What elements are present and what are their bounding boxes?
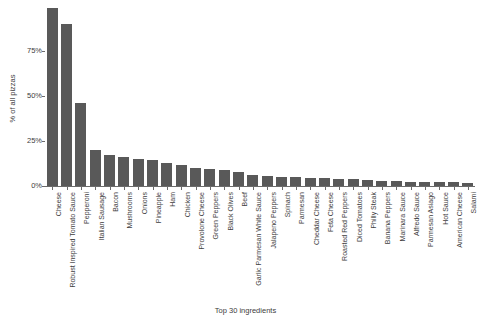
x-axis-tick-mark <box>181 187 182 190</box>
x-axis-tick-label: Garlic Parmesan White Sauce <box>255 192 262 286</box>
x-axis-tick-mark <box>396 187 397 190</box>
x-axis-tick-mark <box>282 187 283 190</box>
bar <box>247 175 258 186</box>
x-axis-tick-label: Parmesan Asiago <box>427 192 434 247</box>
bar <box>348 179 359 186</box>
bar <box>47 8 58 186</box>
x-axis-tick-mark <box>382 187 383 190</box>
x-axis-tick-mark <box>325 187 326 190</box>
x-axis-tick-label: Marinara Sauce <box>399 192 406 241</box>
bar <box>290 177 301 186</box>
x-axis-tick-mark <box>339 187 340 190</box>
y-axis-tick-label: 75% <box>16 47 42 55</box>
x-axis-tick-label: Philly Steak <box>370 192 377 229</box>
x-axis-tick-label: Cheddar Cheese <box>313 192 320 245</box>
x-axis-tick-label: Provolone Cheese <box>198 192 205 250</box>
bar <box>276 177 287 186</box>
x-axis-tick-label: Robust Inspired Tomato Sauce <box>69 192 76 288</box>
bar <box>434 182 445 186</box>
x-axis-tick-mark <box>310 187 311 190</box>
bar <box>75 103 86 186</box>
bar <box>147 160 158 186</box>
x-axis-tick-mark <box>468 187 469 190</box>
bar-chart: % of all pizzas 0%25%50%75% Top 30 ingre… <box>0 0 491 333</box>
x-axis-tick-label: Black Olives <box>227 192 234 231</box>
x-axis-tick-label: Parmesan <box>298 192 305 224</box>
bar <box>462 183 473 186</box>
x-axis-tick-mark <box>296 187 297 190</box>
bar <box>118 157 129 186</box>
bar <box>133 159 144 186</box>
bar <box>305 178 316 186</box>
x-axis-tick-mark <box>67 187 68 190</box>
x-axis-tick-label: Spinach <box>284 192 291 217</box>
x-axis-tick-mark <box>425 187 426 190</box>
bar <box>319 178 330 186</box>
bar <box>262 176 273 186</box>
x-axis-tick-label: Jalapeno Peppers <box>270 192 277 248</box>
x-axis-tick-mark <box>52 187 53 190</box>
x-axis-tick-mark <box>138 187 139 190</box>
x-axis-tick-mark <box>253 187 254 190</box>
x-axis-tick-mark <box>196 187 197 190</box>
x-axis-tick-label: Italian Sausage <box>98 192 105 240</box>
x-axis-tick-label: Salami <box>470 192 477 213</box>
x-axis-tick-label: Banana Peppers <box>384 192 391 244</box>
x-axis-tick-mark <box>210 187 211 190</box>
y-axis-tick-label: 50% <box>16 92 42 100</box>
bar <box>219 170 230 186</box>
x-axis-tick-mark <box>411 187 412 190</box>
x-axis-tick-mark <box>353 187 354 190</box>
x-axis-tick-mark <box>124 187 125 190</box>
bar <box>104 155 115 186</box>
y-axis-tick-labels: 0%25%50%75% <box>12 0 42 196</box>
x-axis-tick-label: Diced Tomatoes <box>356 192 363 242</box>
x-axis-tick-mark <box>224 187 225 190</box>
bar <box>333 179 344 186</box>
x-axis-tick-label: American Cheese <box>456 192 463 248</box>
x-axis-tick-mark <box>454 187 455 190</box>
bar <box>90 150 101 186</box>
x-axis-tick-label: Hot Sauce <box>442 192 449 225</box>
y-axis-tick-label: 0% <box>16 182 42 190</box>
x-axis-tick-label: Beef <box>241 192 248 206</box>
bar <box>376 181 387 186</box>
bar <box>391 181 402 186</box>
x-axis-tick-mark <box>167 187 168 190</box>
x-axis-tick-label: Pineapple <box>155 192 162 223</box>
bar <box>61 24 72 186</box>
y-axis-tick-mark <box>42 96 45 97</box>
x-axis-tick-mark <box>95 187 96 190</box>
y-axis-tick-mark <box>42 186 45 187</box>
x-axis-tick-label: Feta Cheese <box>327 192 334 232</box>
x-axis-tick-mark <box>267 187 268 190</box>
bar <box>448 182 459 186</box>
x-axis-tick-mark <box>153 187 154 190</box>
x-axis-tick-mark <box>110 187 111 190</box>
x-axis-tick-mark <box>81 187 82 190</box>
x-axis-tick-label: Cheese <box>55 192 62 216</box>
x-axis-tick-label: Onions <box>141 192 148 214</box>
y-axis-tick-label: 25% <box>16 137 42 145</box>
y-axis-tick-mark <box>42 141 45 142</box>
x-axis-tick-label: Chicken <box>184 192 191 217</box>
x-axis-tick-label: Alfredo Sauce <box>413 192 420 236</box>
x-axis-tick-label: Ham <box>169 192 176 207</box>
x-axis-tick-mark <box>368 187 369 190</box>
x-axis-tick-label: Mushrooms <box>126 192 133 229</box>
y-axis-tick-mark <box>42 51 45 52</box>
plot-area <box>45 6 475 186</box>
bar <box>176 165 187 186</box>
x-axis-tick-label: Pepperoni <box>83 192 90 224</box>
bar <box>190 168 201 186</box>
bar <box>161 163 172 186</box>
x-axis-tick-label: Green Peppers <box>212 192 219 239</box>
bar <box>405 182 416 187</box>
bar <box>419 182 430 187</box>
bar <box>362 180 373 186</box>
x-axis-tick-mark <box>239 187 240 190</box>
x-axis-title: Top 30 ingredients <box>0 306 491 315</box>
x-axis-tick-label: Roasted Red Peppers <box>341 192 348 261</box>
x-axis-tick-mark <box>439 187 440 190</box>
bar <box>233 172 244 186</box>
